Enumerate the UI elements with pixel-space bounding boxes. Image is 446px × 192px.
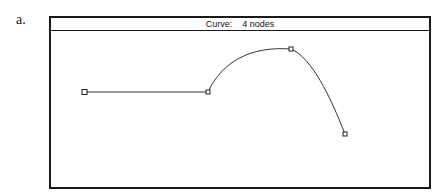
node-handle-start[interactable]: [82, 90, 87, 95]
node-handle-3[interactable]: [289, 47, 293, 51]
curve-segment-1[interactable]: [208, 49, 291, 92]
node-handle-2[interactable]: [206, 90, 210, 94]
curve-segment-2[interactable]: [291, 49, 345, 134]
node-handle-end[interactable]: [343, 132, 347, 136]
curve-drawing: [0, 0, 446, 192]
